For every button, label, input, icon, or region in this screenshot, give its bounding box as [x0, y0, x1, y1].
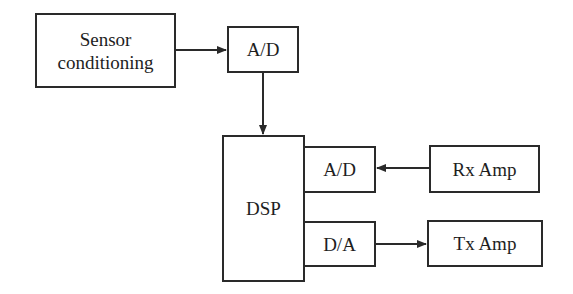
sensor-conditioning-block: Sensor conditioning: [35, 13, 176, 88]
da-converter-tx-block: D/A: [303, 221, 376, 267]
tx-amp-block: Tx Amp: [427, 220, 543, 267]
ad-converter-top-block: A/D: [227, 26, 299, 73]
rx-amp-block: Rx Amp: [429, 145, 540, 193]
dsp-block: DSP: [222, 135, 305, 282]
ad-converter-rx-block: A/D: [303, 146, 376, 193]
